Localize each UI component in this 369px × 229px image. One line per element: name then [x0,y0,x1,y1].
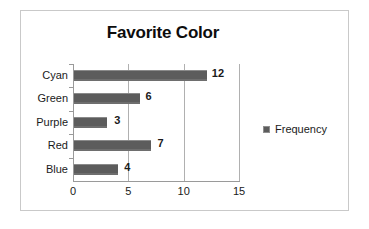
bar-value-green: 6 [145,90,151,102]
bar-blue[interactable] [74,164,118,175]
chart-title: Favorite Color [53,23,273,43]
x-tick-label-5: 5 [125,185,131,197]
bar-value-purple: 3 [114,114,120,126]
gridline-15 [239,64,240,181]
bar-value-red: 7 [157,137,163,149]
y-axis-tick [69,64,73,65]
x-axis-line [73,181,240,182]
category-label-cyan: Cyan [42,69,68,82]
gridline-10 [184,64,185,181]
plot-area: Cyan 12 Green 6 Purple 3 Red 7 Blue 4 0 … [73,64,239,181]
y-axis-tick [69,158,73,159]
bar-cyan[interactable] [74,70,207,81]
bar-red[interactable] [74,140,151,151]
category-label-red: Red [48,139,68,152]
x-tick-label-15: 15 [233,185,245,197]
y-axis-tick [69,134,73,135]
bar-purple[interactable] [74,117,107,128]
y-axis-tick [69,87,73,88]
category-label-green: Green [37,92,68,105]
legend-swatch-icon [263,126,270,133]
y-axis-tick [69,111,73,112]
category-label-purple: Purple [36,116,68,129]
legend-label-frequency: Frequency [275,123,327,135]
bar-value-blue: 4 [124,161,130,173]
chart-legend[interactable]: Frequency [263,123,327,135]
x-tick-label-0: 0 [70,185,76,197]
x-tick-label-10: 10 [178,185,190,197]
bar-value-cyan: 12 [212,67,224,79]
bar-green[interactable] [74,93,140,104]
category-label-blue: Blue [46,163,68,176]
chart-frame: Favorite Color Cyan 12 Green 6 Purple [20,10,349,211]
